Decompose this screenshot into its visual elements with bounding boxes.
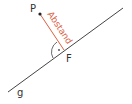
distance-diagram: P F g Abstand (0, 0, 132, 104)
right-angle-arc (51, 42, 57, 58)
line-g (8, 8, 123, 92)
point-p (38, 12, 41, 15)
right-angle-dot (58, 49, 60, 51)
label-p: P (30, 3, 36, 14)
label-g: g (17, 87, 23, 98)
label-f: F (66, 53, 72, 64)
